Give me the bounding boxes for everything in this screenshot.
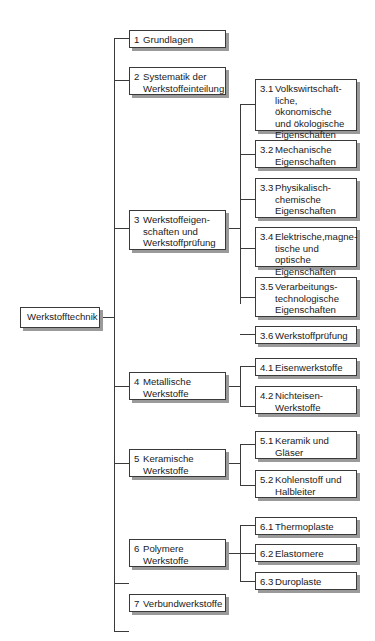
- node-3-4: 3.4 Elektrische,magne- tische und optisc…: [255, 227, 357, 267]
- node-4-2: 4.2 Nichteisen- Werkstoffe: [255, 386, 357, 414]
- node-6-num: 6: [134, 543, 139, 555]
- node-5: 5 Keramische Werkstoffe: [129, 449, 226, 477]
- node-5-num: 5: [134, 453, 139, 465]
- node-3-4-text: Elektrische,magne- tische und optische E…: [260, 231, 352, 277]
- node-6-1: 6.1 Thermoplaste: [255, 517, 357, 535]
- connector-4-out: [226, 386, 240, 387]
- connector-3-out: [226, 228, 240, 229]
- node-3-2-num: 3.2: [260, 144, 273, 156]
- node-3-6-num: 3.6: [260, 330, 273, 342]
- node-3-5: 3.5 Verarbeitungs- technologische Eigens…: [255, 277, 357, 317]
- connector-1: [114, 38, 129, 39]
- node-3-3: 3.3 Physikalisch- chemische Eigenschafte…: [255, 178, 357, 218]
- connector-5-2: [240, 485, 255, 486]
- node-1: 1 Grundlagen: [129, 30, 226, 48]
- node-4-text: Metallische Werkstoffe: [134, 376, 221, 399]
- node-4-1-text: Eisenwerkstoffe: [260, 362, 352, 374]
- root-label: Werkstofftechnik: [27, 311, 95, 323]
- subtrunk-4: [240, 366, 241, 406]
- node-7: 7 Verbundwerkstoffe: [129, 594, 226, 612]
- root-connector: [100, 317, 114, 318]
- node-5-2-text: Kohlenstoff und Halbleiter: [260, 474, 352, 497]
- connector-3-6: [240, 334, 255, 335]
- node-3-1-num: 3.1: [260, 83, 273, 95]
- node-2-text: Systematik der Werkstoffeinteilung: [134, 71, 221, 94]
- root-node: Werkstofftechnik: [20, 307, 100, 328]
- connector-6-1: [240, 525, 255, 526]
- node-3-4-num: 3.4: [260, 231, 273, 243]
- node-6-2-num: 6.2: [260, 548, 273, 560]
- subtrunk-3: [240, 104, 241, 304]
- node-3-6-text: Werkstoffprüfung: [260, 330, 352, 342]
- node-6-1-text: Thermoplaste: [260, 521, 352, 533]
- node-3: 3 Werkstoffeigen- schaften und Werkstoff…: [129, 210, 226, 250]
- node-3-3-num: 3.3: [260, 182, 273, 194]
- node-1-text: Grundlagen: [134, 34, 221, 46]
- connector-4: [114, 386, 129, 387]
- node-6-text: Polymere Werkstoffe: [134, 543, 221, 566]
- node-5-1-text: Keramik und Gläser: [260, 435, 352, 458]
- node-4-1: 4.1 Eisenwerkstoffe: [255, 358, 357, 376]
- node-3-6: 3.6 Werkstoffprüfung: [255, 326, 357, 344]
- connector-5-out: [226, 463, 240, 464]
- connector-3: [114, 228, 129, 229]
- node-3-2: 3.2 Mechanische Eigenschaften: [255, 140, 357, 168]
- node-5-text: Keramische Werkstoffe: [134, 453, 221, 476]
- node-7-num: 7: [134, 598, 139, 610]
- connector-3-4: [240, 248, 255, 249]
- node-6-3-num: 6.3: [260, 576, 273, 588]
- node-3-1: 3.1 Volkswirtschaft- liche, ökonomische …: [255, 79, 357, 131]
- connector-3-1: [240, 104, 255, 105]
- node-2-num: 2: [134, 71, 139, 83]
- node-5-2-num: 5.2: [260, 474, 273, 486]
- connector-4-1: [240, 366, 255, 367]
- connector-6-3: [240, 581, 255, 582]
- node-4-num: 4: [134, 376, 139, 388]
- main-trunk: [114, 38, 115, 632]
- node-1-num: 1: [134, 34, 139, 46]
- connector-2: [114, 80, 129, 81]
- connector-3-5: [240, 297, 255, 298]
- node-3-text: Werkstoffeigen- schaften und Werkstoffpr…: [134, 214, 221, 249]
- node-3-5-text: Verarbeitungs- technologische Eigenschaf…: [260, 281, 352, 316]
- node-3-3-text: Physikalisch- chemische Eigenschaften: [260, 182, 352, 217]
- node-4: 4 Metallische Werkstoffe: [129, 372, 226, 400]
- node-6: 6 Polymere Werkstoffe: [129, 539, 226, 567]
- node-3-2-text: Mechanische Eigenschaften: [260, 144, 352, 167]
- node-5-1-num: 5.1: [260, 435, 273, 447]
- connector-4-2: [240, 406, 255, 407]
- connector-5-1: [240, 444, 255, 445]
- connector-3-3: [240, 199, 255, 200]
- node-6-2: 6.2 Elastomere: [255, 544, 357, 562]
- node-4-2-text: Nichteisen- Werkstoffe: [260, 390, 352, 413]
- connector-6-out: [226, 553, 240, 554]
- node-3-1-text: Volkswirtschaft- liche, ökonomische und …: [260, 83, 352, 141]
- connector-6: [114, 583, 129, 584]
- connector-5: [114, 463, 129, 464]
- node-5-2: 5.2 Kohlenstoff und Halbleiter: [255, 470, 357, 498]
- node-5-1: 5.1 Keramik und Gläser: [255, 431, 357, 459]
- node-6-1-num: 6.1: [260, 521, 273, 533]
- subtrunk-5: [240, 444, 241, 485]
- node-2: 2 Systematik der Werkstoffeinteilung: [129, 67, 226, 95]
- node-3-num: 3: [134, 214, 139, 226]
- node-6-3-text: Duroplaste: [260, 576, 352, 588]
- node-4-1-num: 4.1: [260, 362, 273, 374]
- node-3-5-num: 3.5: [260, 281, 273, 293]
- node-4-2-num: 4.2: [260, 390, 273, 402]
- connector-7: [114, 631, 129, 632]
- connector-3-2: [240, 154, 255, 155]
- node-7-text: Verbundwerkstoffe: [134, 598, 221, 610]
- node-6-2-text: Elastomere: [260, 548, 352, 560]
- connector-6-2: [240, 553, 255, 554]
- node-6-3: 6.3 Duroplaste: [255, 572, 357, 590]
